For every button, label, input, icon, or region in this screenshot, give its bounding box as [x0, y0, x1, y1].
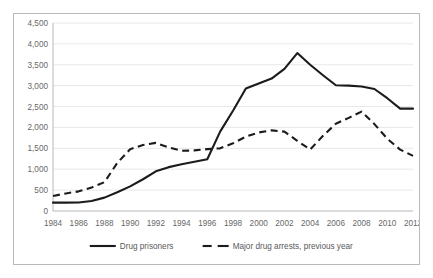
x-tick-label: 1990 [121, 219, 140, 228]
y-tick-label: 4,000 [28, 40, 49, 49]
line-chart: 05001,0001,5002,0002,5003,0003,5004,0004… [14, 14, 419, 264]
x-tick-label: 2008 [352, 219, 371, 228]
chart-legend: Drug prisonersMajor drug arrests, previo… [90, 242, 353, 251]
y-tick-label: 4,500 [28, 19, 49, 28]
legend-label: Major drug arrests, previous year [233, 242, 353, 251]
axis-lines [53, 23, 413, 211]
x-tick-label: 2010 [378, 219, 397, 228]
x-tick-label: 2006 [327, 219, 346, 228]
x-axis-tick-labels: 1984198619881990199219941996199820002002… [44, 219, 419, 228]
x-tick-label: 2000 [250, 219, 269, 228]
x-tick-label: 2004 [301, 219, 320, 228]
x-tick-label: 1986 [70, 219, 89, 228]
chart-figure: 05001,0001,5002,0002,5003,0003,5004,0004… [13, 13, 420, 265]
x-tick-label: 1996 [198, 219, 217, 228]
y-tick-label: 1,000 [28, 165, 49, 174]
x-tick-label: 1992 [147, 219, 166, 228]
legend-label: Drug prisoners [120, 242, 174, 251]
series-line-2 [53, 112, 413, 196]
x-tick-label: 2012 [404, 219, 419, 228]
y-tick-label: 2,500 [28, 103, 49, 112]
y-tick-label: 2,000 [28, 123, 49, 132]
y-axis-tick-labels: 05001,0001,5002,0002,5003,0003,5004,0004… [28, 19, 49, 216]
y-tick-label: 3,500 [28, 61, 49, 70]
series-line-1 [53, 53, 413, 203]
y-tick-label: 3,000 [28, 82, 49, 91]
gridlines-group [53, 23, 413, 190]
y-tick-label: 500 [34, 186, 48, 195]
x-tick-label: 2002 [275, 219, 294, 228]
y-tick-label: 1,500 [28, 144, 49, 153]
y-tick-label: 0 [43, 207, 48, 216]
data-series-group [53, 53, 413, 203]
x-tick-label: 1984 [44, 219, 63, 228]
x-tick-label: 1988 [95, 219, 114, 228]
x-tick-label: 1994 [172, 219, 191, 228]
x-tick-label: 1998 [224, 219, 243, 228]
